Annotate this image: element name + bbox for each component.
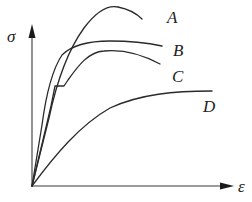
curve-a: [32, 7, 142, 186]
y-axis-arrow-icon: [29, 24, 36, 38]
curve-b: [32, 41, 162, 186]
y-axis-label: σ: [7, 28, 15, 45]
curve-b-label: B: [173, 42, 183, 59]
curve-d-label: D: [203, 98, 215, 115]
curve-a-label: A: [167, 9, 177, 26]
curve-c-label: C: [172, 68, 183, 85]
x-axis-arrow-icon: [220, 183, 234, 190]
curve-d: [32, 91, 212, 186]
x-axis-label: ε: [238, 178, 245, 195]
curve-c: [32, 51, 160, 186]
